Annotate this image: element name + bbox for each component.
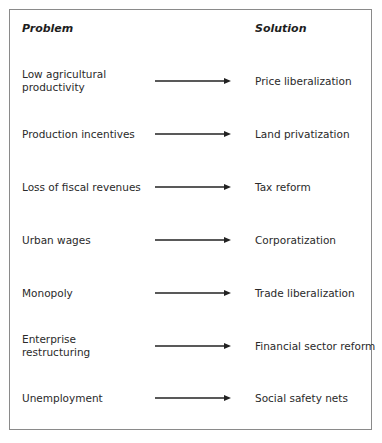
- problem-column-header: Problem: [22, 22, 73, 35]
- arrow-right-icon: [155, 394, 231, 402]
- arrow-right-icon: [155, 289, 231, 297]
- arrow-right-icon: [155, 236, 231, 244]
- solution-label: Land privatization: [255, 128, 350, 141]
- problem-label: Low agricultural productivity: [22, 68, 147, 94]
- solution-label: Price liberalization: [255, 75, 352, 88]
- solution-label: Financial sector reform: [255, 340, 375, 353]
- problem-label: Unemployment: [22, 392, 147, 405]
- solution-label: Social safety nets: [255, 392, 348, 405]
- solution-label: Trade liberalization: [255, 287, 355, 300]
- solution-label: Tax reform: [255, 181, 311, 194]
- arrow-right-icon: [155, 183, 231, 191]
- solution-label: Corporatization: [255, 234, 336, 247]
- problem-label: Loss of fiscal revenues: [22, 181, 147, 194]
- problem-label: Production incentives: [22, 128, 147, 141]
- arrow-right-icon: [155, 77, 231, 85]
- problem-label: Urban wages: [22, 234, 147, 247]
- problem-label: Enterprise restructuring: [22, 333, 147, 359]
- problem-label: Monopoly: [22, 287, 147, 300]
- arrow-right-icon: [155, 342, 231, 350]
- arrow-right-icon: [155, 130, 231, 138]
- solution-column-header: Solution: [255, 22, 307, 35]
